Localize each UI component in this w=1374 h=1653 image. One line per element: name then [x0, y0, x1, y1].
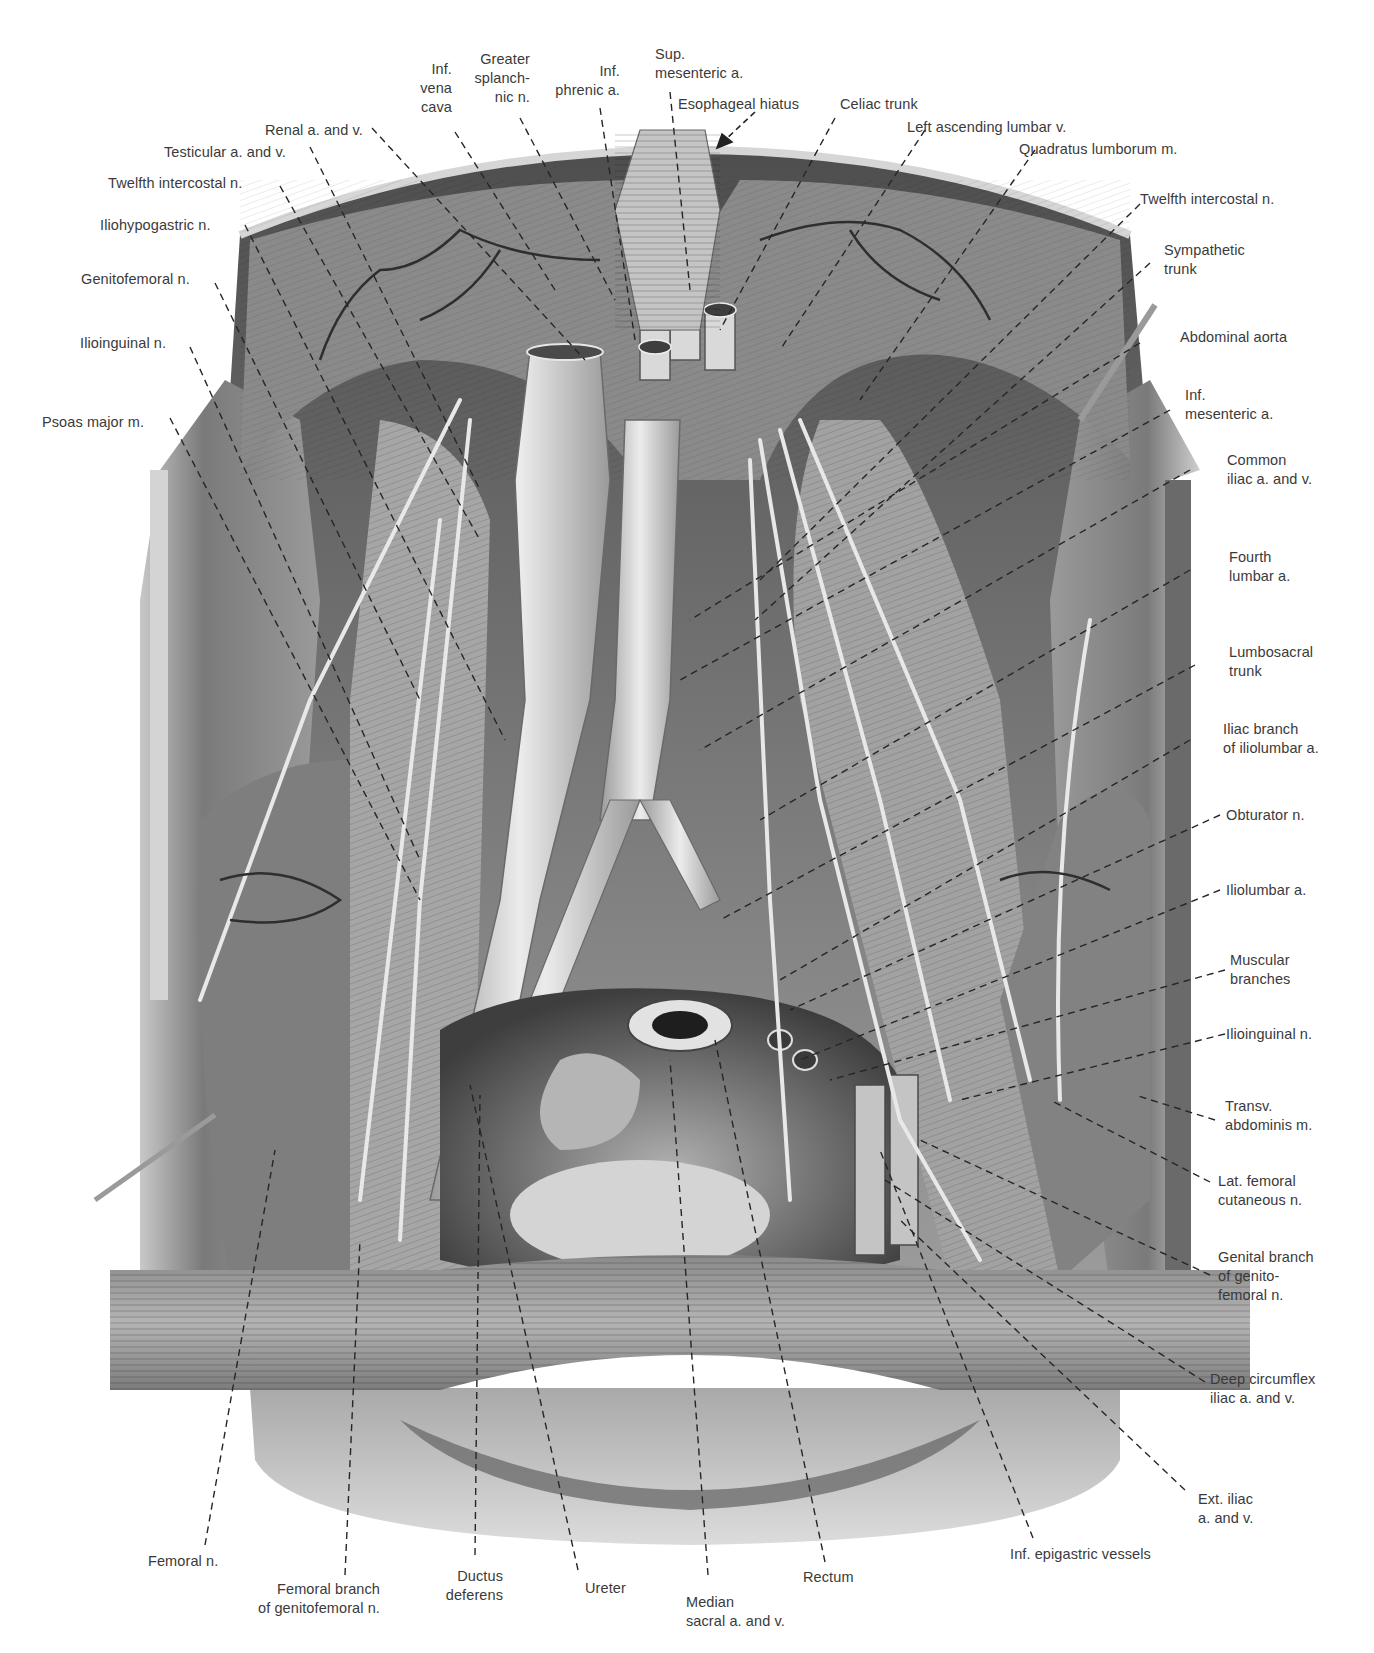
- label-iliac-branch-of-iliolumbar-a: Iliac branch of iliolumbar a.: [1223, 720, 1319, 758]
- label-common-iliac-a-and-v: Common iliac a. and v.: [1227, 451, 1312, 489]
- label-twelfth-intercostal-n-left: Twelfth intercostal n.: [108, 174, 242, 193]
- label-ureter: Ureter: [585, 1579, 626, 1598]
- anatomy-figure: Inf. vena cava Greater splanch- nic n. I…: [0, 0, 1374, 1653]
- bladder: [510, 1160, 770, 1270]
- label-median-sacral-a-and-v: Median sacral a. and v.: [686, 1593, 785, 1631]
- label-inf-mesenteric-a: Inf. mesenteric a.: [1185, 386, 1273, 424]
- label-ductus-deferens: Ductus deferens: [415, 1567, 503, 1605]
- label-inf-vena-cava: Inf. vena cava: [402, 60, 452, 117]
- label-lumbosacral-trunk: Lumbosacral trunk: [1229, 643, 1313, 681]
- label-femoral-branch-of-genitofemoral-n: Femoral branch of genitofemoral n.: [200, 1580, 380, 1618]
- label-inf-phrenic-a: Inf. phrenic a.: [540, 62, 620, 100]
- label-abdominal-aorta: Abdominal aorta: [1180, 328, 1287, 347]
- label-psoas-major-m: Psoas major m.: [42, 413, 144, 432]
- label-iliolumbar-a: Iliolumbar a.: [1226, 881, 1306, 900]
- label-lat-femoral-cutaneous-n: Lat. femoral cutaneous n.: [1218, 1172, 1302, 1210]
- label-celiac-trunk: Celiac trunk: [840, 95, 918, 114]
- label-muscular-branches: Muscular branches: [1230, 951, 1290, 989]
- label-ext-iliac-a-and-v: Ext. iliac a. and v.: [1198, 1490, 1253, 1528]
- label-inf-epigastric-vessels: Inf. epigastric vessels: [1010, 1545, 1151, 1564]
- label-ilioinguinal-n-left: Ilioinguinal n.: [80, 334, 166, 353]
- label-deep-circumflex-iliac-a-and-v: Deep circumflex iliac a. and v.: [1210, 1370, 1315, 1408]
- arrow-icon: [717, 112, 755, 148]
- label-testicular-a-and-v: Testicular a. and v.: [164, 143, 286, 162]
- label-esophageal-hiatus: Esophageal hiatus: [678, 95, 799, 114]
- label-twelfth-intercostal-n-right: Twelfth intercostal n.: [1140, 190, 1274, 209]
- label-iliohypogastric-n: Iliohypogastric n.: [100, 216, 211, 235]
- label-sup-mesenteric-a: Sup. mesenteric a.: [655, 45, 743, 83]
- label-quadratus-lumborum-m: Quadratus lumborum m.: [1019, 140, 1177, 159]
- label-ilioinguinal-n-right: Ilioinguinal n.: [1226, 1025, 1312, 1044]
- label-fourth-lumbar-a: Fourth lumbar a.: [1229, 548, 1290, 586]
- pubic-region: [250, 1388, 1120, 1545]
- label-genitofemoral-n: Genitofemoral n.: [81, 270, 190, 289]
- label-femoral-n: Femoral n.: [148, 1552, 218, 1571]
- label-rectum: Rectum: [803, 1568, 854, 1587]
- label-greater-splanchnic-n: Greater splanch- nic n.: [455, 50, 530, 107]
- label-transv-abdominis-m: Transv. abdominis m.: [1225, 1097, 1312, 1135]
- label-obturator-n: Obturator n.: [1226, 806, 1305, 825]
- label-sympathetic-trunk: Sympathetic trunk: [1164, 241, 1245, 279]
- label-renal-a-and-v: Renal a. and v.: [265, 121, 363, 140]
- label-left-ascending-lumbar-v: Left ascending lumbar v.: [907, 118, 1066, 137]
- label-genital-branch-of-genitofemoral-n: Genital branch of genito- femoral n.: [1218, 1248, 1314, 1305]
